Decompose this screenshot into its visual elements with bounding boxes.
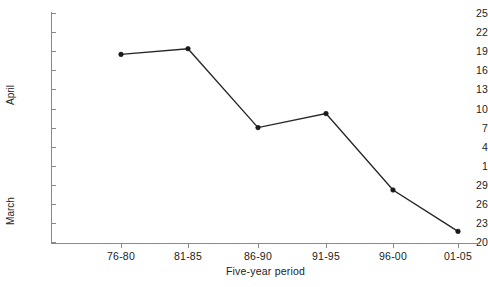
series-line-date [121,49,458,232]
data-point-marker [391,188,396,193]
data-point-marker [119,52,124,57]
line-chart: 25221916131074129262320 April March 76-8… [0,0,488,287]
data-point-marker [186,46,191,51]
series-markers [119,46,461,233]
plot-area [0,0,488,287]
data-point-marker [256,125,261,130]
data-point-marker [456,229,461,234]
data-point-marker [324,111,329,116]
